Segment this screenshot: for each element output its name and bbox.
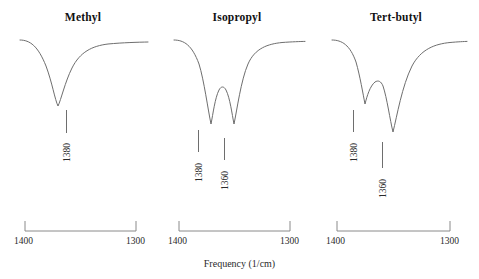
spectrum-curve-tert-butyl	[320, 28, 472, 213]
peak-label-methyl-1380: 1380	[62, 143, 72, 162]
panel-title-tert-butyl: Tert-butyl	[320, 11, 472, 24]
leader-line-tert-butyl-1360	[382, 142, 383, 168]
x-tick-left-tert-butyl: 1400	[326, 236, 345, 247]
spectrum-curve-isopropyl	[162, 28, 312, 213]
x-axis-bracket-isopropyl	[162, 218, 312, 234]
peak-label-tert-butyl-1380: 1380	[349, 143, 359, 162]
x-tick-left-isopropyl: 1400	[168, 236, 187, 247]
spectrum-panel-tert-butyl: Tert-butyl 1380 1360 1400 1300	[320, 0, 472, 279]
leader-line-isopropyl-1360	[224, 138, 225, 160]
peak-label-isopropyl-1380: 1380	[194, 163, 204, 182]
x-axis-bracket-methyl	[8, 218, 158, 234]
spectrum-panel-methyl: Methyl 1380 1400 1300	[8, 0, 158, 279]
panel-title-methyl: Methyl	[8, 11, 158, 24]
x-axis-title: Frequency (1/cm)	[0, 258, 479, 270]
leader-line-isopropyl-1380	[198, 130, 199, 152]
spectrum-curve-methyl	[8, 28, 158, 213]
x-tick-right-methyl: 1300	[126, 236, 145, 247]
peak-label-isopropyl-1360: 1360	[220, 171, 230, 190]
x-axis-bracket-tert-butyl	[320, 218, 472, 234]
x-tick-right-tert-butyl: 1300	[440, 236, 459, 247]
x-tick-left-methyl: 1400	[14, 236, 33, 247]
peak-label-tert-butyl-1360: 1360	[378, 179, 388, 198]
ir-spectra-figure: Methyl 1380 1400 1300 Isopropyl 1380 136…	[0, 0, 479, 279]
leader-line-tert-butyl-1380	[353, 110, 354, 132]
leader-line-methyl-1380	[66, 110, 67, 133]
spectrum-panel-isopropyl: Isopropyl 1380 1360 1400 1300	[162, 0, 312, 279]
x-tick-right-isopropyl: 1300	[280, 236, 299, 247]
panel-title-isopropyl: Isopropyl	[162, 11, 312, 24]
